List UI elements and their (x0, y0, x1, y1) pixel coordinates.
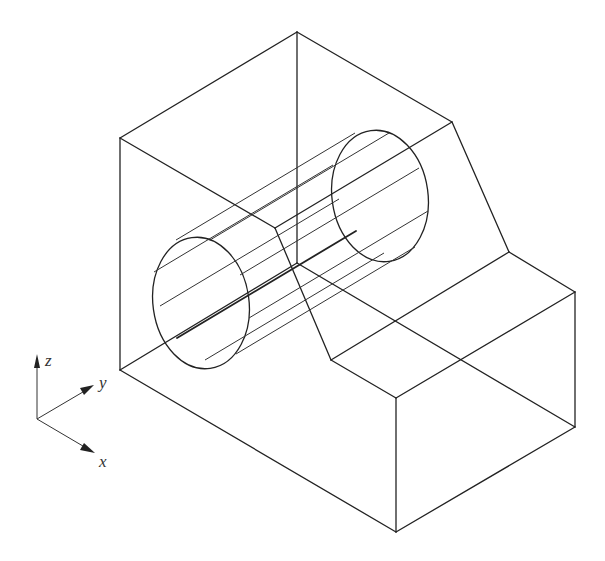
z-axis-arrow-icon (34, 354, 40, 368)
edge-step-left (331, 360, 396, 398)
edge-bottom-right (396, 427, 575, 532)
y-axis-line (37, 389, 88, 419)
edge-inner-to-right-bottom (297, 263, 575, 427)
edge-top-back-to-slope (297, 32, 452, 122)
edge-top-left-to-back (120, 32, 297, 138)
cylinder-front-ellipse (144, 231, 257, 375)
y-axis-label: y (97, 373, 107, 392)
x-axis-arrow-icon (80, 443, 95, 453)
cylinder-line-axis (177, 231, 356, 338)
x-axis-label: x (98, 452, 107, 471)
cylinder-back-ellipse (323, 124, 436, 268)
cylinder-line-8 (210, 133, 389, 240)
edge-slope-left (275, 228, 331, 360)
cylinder-line-5 (236, 247, 415, 354)
cylinder-line-7 (240, 168, 419, 275)
diagram-canvas: z y x (0, 0, 605, 561)
z-axis-label: z (44, 351, 52, 370)
edge-step-front (396, 292, 575, 398)
edge-bottom-back (120, 263, 297, 370)
x-axis-line (37, 419, 88, 449)
block-wireframe (120, 32, 575, 532)
cylinder-bore (144, 124, 436, 375)
axis-triad: z y x (34, 351, 107, 471)
isometric-drawing: z y x (0, 0, 605, 561)
y-axis-arrow-icon (80, 385, 94, 395)
edge-bottom-left (120, 370, 396, 532)
edge-step-right (509, 252, 575, 292)
edge-slope-right (452, 122, 509, 252)
